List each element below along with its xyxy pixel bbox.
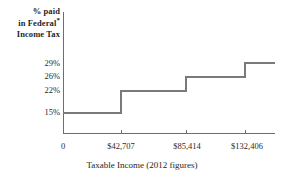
x-tick-label-42707: $42,707 [91, 141, 151, 151]
x-tick-label-0: 0 [53, 141, 73, 151]
x-tick-label-85414: $85,414 [157, 141, 217, 151]
x-tick-label-132406: $132,406 [215, 141, 279, 151]
x-axis-caption: Taxable Income (2012 figures) [0, 160, 284, 171]
x-axis-tick-labels: 0 $42,707 $85,414 $132,406 [0, 0, 284, 179]
tax-rate-step-chart: % paid in Federal* Income Tax 29% 26% 22… [0, 0, 284, 179]
